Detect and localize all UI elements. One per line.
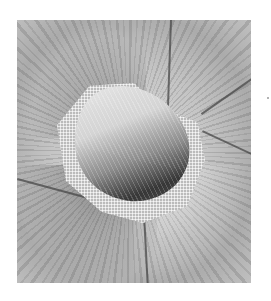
petal-divider-upper-right: [201, 70, 251, 115]
speck: [267, 97, 269, 99]
embroidery-photo: [17, 20, 251, 283]
